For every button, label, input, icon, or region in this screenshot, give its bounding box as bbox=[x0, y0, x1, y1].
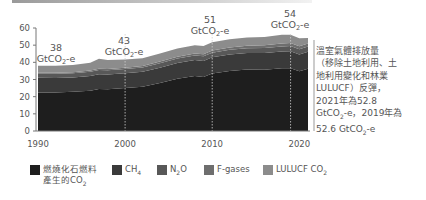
legend-swatch bbox=[30, 165, 40, 175]
legend-swatch bbox=[263, 165, 273, 175]
svg-text:51: 51 bbox=[204, 14, 216, 25]
legend-swatch bbox=[204, 165, 214, 175]
legend-swatch bbox=[157, 165, 167, 175]
svg-text:54: 54 bbox=[284, 8, 296, 19]
legend-item-n2o: N2O bbox=[157, 164, 187, 178]
legend-item-fossil-co2: 燃燒化石燃料產生的CO2 bbox=[30, 164, 97, 189]
annotation-2010: 51 GtCO2-e bbox=[191, 14, 230, 38]
svg-text:GtCO2-e: GtCO2-e bbox=[37, 53, 76, 66]
svg-text:GtCO2-e: GtCO2-e bbox=[271, 19, 310, 32]
svg-text:1990: 1990 bbox=[27, 139, 49, 149]
svg-text:38: 38 bbox=[50, 42, 62, 53]
svg-text:60: 60 bbox=[19, 23, 30, 33]
x-tick-labels: 1990200020102020 bbox=[27, 139, 310, 149]
svg-text:40: 40 bbox=[19, 57, 30, 67]
svg-text:2000: 2000 bbox=[114, 139, 136, 149]
legend-item-f-gases: F-gases bbox=[204, 164, 250, 175]
y-tick-labels: 0102030405060 bbox=[19, 23, 36, 136]
svg-text:GtCO2-e: GtCO2-e bbox=[191, 25, 230, 38]
svg-text:43: 43 bbox=[118, 35, 130, 46]
legend-item-lulucf-co2: LULUCF CO2 bbox=[263, 164, 327, 178]
svg-text:10: 10 bbox=[19, 109, 30, 119]
legend-item-ch4: CH4 bbox=[112, 164, 141, 178]
svg-text:50: 50 bbox=[19, 40, 30, 50]
summary-note: 溫室氣體排放量 （移除土地利用、土 地利用變化和林業 LULUCF）反彈， 20… bbox=[316, 45, 424, 139]
annotation-2000: 43 GtCO2-e bbox=[105, 35, 144, 59]
annotation-1990: 38 GtCO2-e bbox=[37, 42, 76, 66]
svg-text:2020: 2020 bbox=[288, 139, 310, 149]
svg-text:GtCO2-e: GtCO2-e bbox=[105, 46, 144, 59]
svg-text:2010: 2010 bbox=[201, 139, 223, 149]
area-layers bbox=[38, 35, 308, 131]
svg-text:0: 0 bbox=[25, 126, 30, 136]
annotation-2019: 54 GtCO2-e bbox=[271, 8, 310, 32]
legend-swatch bbox=[112, 165, 122, 175]
svg-text:30: 30 bbox=[19, 75, 30, 85]
svg-text:20: 20 bbox=[19, 92, 30, 102]
